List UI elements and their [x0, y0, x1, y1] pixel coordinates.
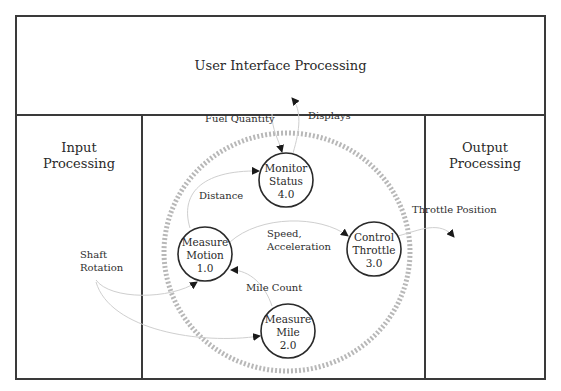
process-name-line2: Motion [178, 249, 232, 262]
process-name-line2: Mile [261, 326, 315, 339]
process-monitor-status-label: Monitor Status 4.0 [259, 162, 313, 201]
flow-displays [292, 98, 299, 153]
flow-label-line1: Shaft [80, 249, 123, 262]
flow-label-speed-acceleration: Speed, Acceleration [267, 228, 331, 253]
flow-label-line1: Speed, [267, 228, 331, 241]
output-title-line2: Processing [424, 156, 546, 172]
process-name-line1: Monitor [259, 162, 313, 175]
flow-label-throttle-position: Throttle Position [412, 204, 497, 217]
process-name-line1: Measure [261, 313, 315, 326]
user-interface-title: User Interface Processing [15, 58, 546, 74]
process-name-line2: Throttle [347, 244, 401, 257]
flow-label-line2: Rotation [80, 262, 123, 275]
flow-label-fuel-quantity: Fuel Quantity [205, 113, 275, 126]
flow-label-shaft-rotation: Shaft Rotation [80, 249, 123, 274]
process-number: 3.0 [347, 257, 401, 270]
flow-label-distance: Distance [199, 190, 243, 203]
process-control-throttle-label: Control Throttle 3.0 [347, 231, 401, 270]
process-number: 4.0 [259, 188, 313, 201]
flow-label-mile-count: Mile Count [246, 282, 302, 295]
flow-shaft-rotation-motion [96, 280, 197, 295]
process-name-line1: Measure [178, 236, 232, 249]
process-measure-mile-label: Measure Mile 2.0 [261, 313, 315, 352]
process-measure-motion-label: Measure Motion 1.0 [178, 236, 232, 275]
process-number: 1.0 [178, 262, 232, 275]
process-name-line2: Status [259, 175, 313, 188]
output-title-line1: Output [424, 140, 546, 156]
input-processing-title: Input Processing [15, 140, 143, 173]
output-processing-title: Output Processing [424, 140, 546, 173]
flow-label-displays: Displays [308, 110, 351, 123]
input-title-line2: Processing [15, 156, 143, 172]
process-name-line1: Control [347, 231, 401, 244]
input-title-line1: Input [15, 140, 143, 156]
flow-label-line2: Acceleration [267, 241, 331, 254]
process-number: 2.0 [261, 339, 315, 352]
